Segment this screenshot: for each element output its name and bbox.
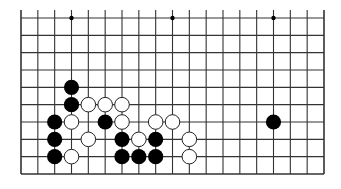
white-stone [81,97,96,112]
black-stone [47,114,62,129]
black-stone [131,149,146,164]
black-stone [148,132,163,147]
black-stone [47,149,62,164]
black-stone [114,132,129,147]
go-board [0,0,341,189]
star-point-icon [69,16,73,20]
black-stone [148,149,163,164]
white-stone [64,115,79,130]
white-stone [132,132,147,147]
star-point-icon [170,16,174,20]
white-stone [115,97,130,112]
black-stone [114,149,129,164]
black-stone [266,114,281,129]
black-stone [98,114,113,129]
black-stone [64,97,79,112]
white-stone [182,149,197,164]
white-stone [115,115,130,130]
white-stone [165,115,180,130]
star-point-icon [271,16,275,20]
white-stone [64,149,79,164]
white-stone [182,132,197,147]
black-stone [47,132,62,147]
white-stone [81,132,96,147]
white-stone [148,115,163,130]
black-stone [64,80,79,95]
white-stone [98,97,113,112]
